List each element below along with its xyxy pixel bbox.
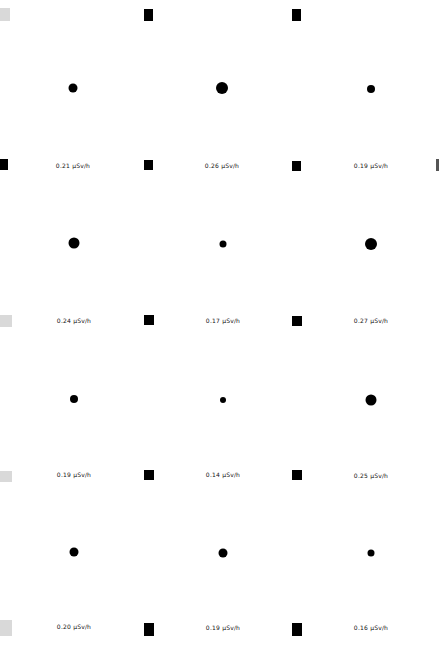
grid-marker [144, 9, 153, 21]
dose-dot [69, 238, 80, 249]
dose-label: 0.21 µSv/h [56, 162, 90, 169]
dose-dot [219, 549, 228, 558]
dose-dot [366, 395, 377, 406]
dose-label: 0.26 µSv/h [205, 162, 239, 169]
grid-marker [292, 9, 301, 21]
dose-label: 0.14 µSv/h [206, 471, 240, 478]
dose-label: 0.24 µSv/h [57, 317, 91, 324]
dose-label: 0.16 µSv/h [354, 624, 388, 631]
grid-marker [292, 623, 302, 636]
dose-label: 0.19 µSv/h [206, 624, 240, 631]
grid-marker [292, 161, 301, 171]
grid-marker [292, 316, 302, 326]
grid-marker [0, 8, 10, 21]
grid-marker [144, 470, 154, 480]
grid-marker [144, 160, 153, 170]
grid-marker [144, 315, 154, 325]
dose-label: 0.20 µSv/h [57, 623, 91, 630]
grid-marker [292, 470, 302, 480]
dose-label: 0.17 µSv/h [206, 317, 240, 324]
grid-marker [0, 159, 8, 170]
dose-dot [367, 85, 375, 93]
dose-label: 0.25 µSv/h [354, 472, 388, 479]
dose-dot [368, 550, 375, 557]
grid-marker [0, 315, 12, 327]
dose-dot [220, 241, 227, 248]
grid-marker [0, 471, 12, 482]
dose-label: 0.19 µSv/h [57, 471, 91, 478]
dose-dot [70, 548, 79, 557]
dose-dot [70, 395, 78, 403]
dose-label: 0.19 µSv/h [354, 162, 388, 169]
dose-dot [220, 397, 226, 403]
dose-dot [365, 238, 377, 250]
grid-marker [0, 620, 12, 636]
dose-dot [216, 82, 228, 94]
dose-dot [69, 84, 78, 93]
dose-label: 0.27 µSv/h [354, 317, 388, 324]
grid-marker [144, 623, 154, 636]
